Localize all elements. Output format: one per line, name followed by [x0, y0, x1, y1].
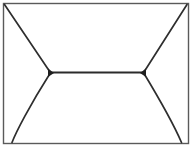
outer-frame-rect: [4, 4, 189, 144]
envelope-line-drawing: Envelope outline line drawing: [0, 0, 193, 148]
envelope-figure: Envelope outline line drawing: [0, 0, 193, 148]
